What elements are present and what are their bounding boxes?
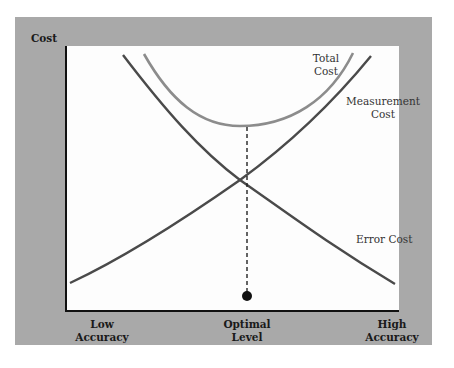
error-cost-curve	[123, 55, 395, 284]
measurement-cost-label: Measurement Cost	[343, 95, 423, 121]
measurement-cost-label-line2: Cost	[343, 108, 423, 121]
error-cost-label: Error Cost	[356, 233, 412, 246]
optimal-level-dot	[242, 291, 252, 301]
cost-accuracy-chart	[0, 0, 454, 368]
measurement-cost-label-line1: Measurement	[343, 95, 423, 108]
x-tick-low-line2: Accuracy	[72, 331, 132, 344]
x-tick-optimal-level: Optimal Level	[215, 318, 279, 344]
total-cost-label-line1: Total	[306, 52, 346, 65]
x-tick-low-line1: Low	[72, 318, 132, 331]
y-axis-label: Cost	[31, 32, 57, 45]
x-tick-optimal-line2: Level	[215, 331, 279, 344]
x-tick-optimal-line1: Optimal	[215, 318, 279, 331]
total-cost-label: Total Cost	[306, 52, 346, 78]
total-cost-label-line2: Cost	[306, 65, 346, 78]
x-tick-low-accuracy: Low Accuracy	[72, 318, 132, 344]
x-tick-high-line1: High	[360, 318, 424, 331]
x-tick-high-accuracy: High Accuracy	[360, 318, 424, 344]
x-tick-high-line2: Accuracy	[360, 331, 424, 344]
